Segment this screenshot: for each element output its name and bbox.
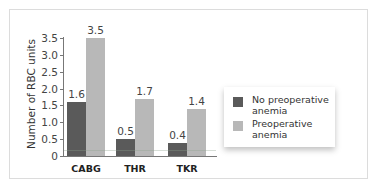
y-tick-mark <box>60 122 63 123</box>
bar-thr-1 <box>135 99 154 156</box>
legend-swatch-light <box>233 121 243 131</box>
bar-value-label: 3.5 <box>81 24 111 36</box>
bar-thr-0 <box>116 139 135 156</box>
y-tick-label: 1.0 <box>36 116 58 128</box>
y-tick-label: 0 <box>36 150 58 162</box>
bar-tkr-1 <box>187 109 206 156</box>
x-axis <box>63 156 217 157</box>
y-tick-mark <box>60 156 63 157</box>
y-tick-mark <box>60 38 63 39</box>
y-tick-label: 3.5 <box>36 32 58 44</box>
y-tick-mark <box>60 72 63 73</box>
legend-label: No preoperative anemia <box>252 95 332 116</box>
bar-cabg-0 <box>67 102 86 156</box>
legend: No preoperative anemia Preoperative anem… <box>224 87 335 147</box>
y-tick-mark <box>60 139 63 140</box>
legend-item-no-anemia: No preoperative anemia <box>233 95 332 116</box>
y-tick-label: 3.0 <box>36 49 58 61</box>
bar-cabg-1 <box>86 38 105 156</box>
y-tick-label: 2.0 <box>36 83 58 95</box>
reference-line <box>64 150 216 151</box>
y-tick-label: 1.5 <box>36 99 58 111</box>
y-tick-label: 2.5 <box>36 66 58 78</box>
legend-item-anemia: Preoperative anemia <box>233 119 332 140</box>
x-category-label: CABG <box>66 163 106 174</box>
y-tick-mark <box>60 55 63 56</box>
bar-value-label: 1.7 <box>130 85 160 97</box>
y-tick-label: 0.5 <box>36 133 58 145</box>
bar-value-label: 1.4 <box>182 95 212 107</box>
legend-swatch-dark <box>233 97 243 107</box>
x-category-label: THR <box>115 163 155 174</box>
legend-label: Preoperative anemia <box>252 119 332 140</box>
x-category-label: TKR <box>167 163 207 174</box>
y-tick-mark <box>60 105 63 106</box>
